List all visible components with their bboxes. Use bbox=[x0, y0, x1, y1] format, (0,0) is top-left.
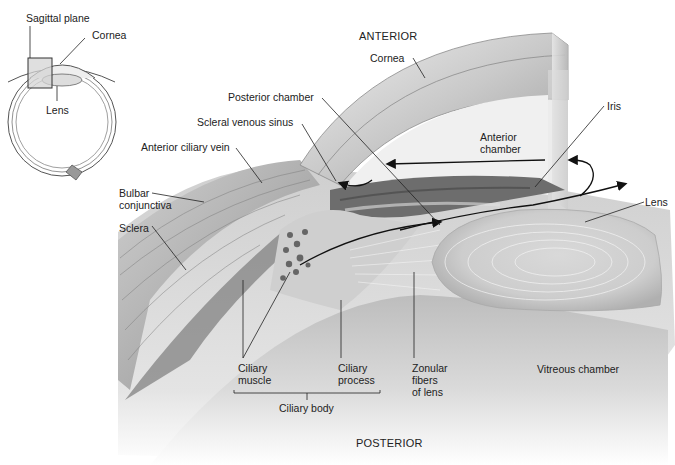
label-sclera: Sclera bbox=[119, 222, 149, 234]
inset-eyeball bbox=[8, 26, 116, 180]
inset-label-sagittal-plane: Sagittal plane bbox=[26, 12, 90, 24]
label-posterior-chamber: Posterior chamber bbox=[228, 91, 314, 103]
label-anterior-chamber: Anterior chamber bbox=[480, 131, 521, 155]
label-scleral-venous-sinus: Scleral venous sinus bbox=[197, 116, 293, 128]
label-zonular-fibers: Zonular fibers of lens bbox=[412, 362, 448, 398]
inset-label-lens: Lens bbox=[46, 104, 69, 116]
label-ciliary-muscle: Ciliary muscle bbox=[238, 362, 271, 386]
label-ciliary-body: Ciliary body bbox=[279, 402, 334, 414]
inset-label-cornea: Cornea bbox=[92, 29, 126, 41]
label-anterior-ciliary-vein: Anterior ciliary vein bbox=[141, 141, 230, 153]
label-iris: Iris bbox=[607, 100, 621, 112]
label-vitreous-chamber: Vitreous chamber bbox=[537, 363, 619, 375]
diagram-artwork bbox=[0, 0, 675, 465]
label-bulbar-conjunctiva: Bulbar conjunctiva bbox=[119, 187, 172, 211]
label-lens: Lens bbox=[645, 196, 668, 208]
direction-label-anterior: ANTERIOR bbox=[359, 30, 417, 42]
label-ciliary-process: Ciliary process bbox=[338, 362, 375, 386]
eye-anatomy-diagram: Sagittal plane Cornea Lens ANTERIOR POST… bbox=[0, 0, 675, 465]
label-cornea: Cornea bbox=[370, 52, 404, 64]
direction-label-posterior: POSTERIOR bbox=[356, 437, 423, 449]
lens-shape bbox=[432, 209, 662, 311]
